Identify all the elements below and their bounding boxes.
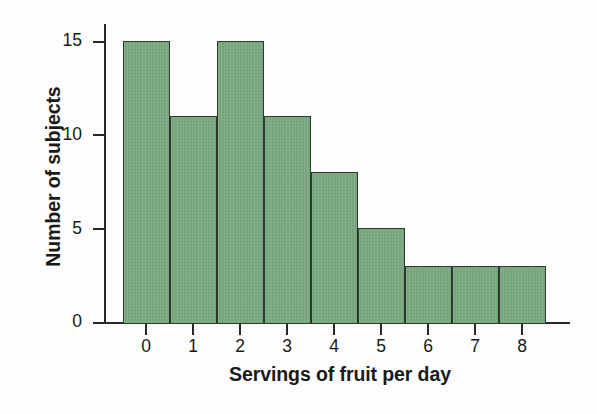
x-tick-label-8: 8 xyxy=(502,336,542,357)
x-tick-4 xyxy=(333,324,335,335)
bar-6 xyxy=(405,266,452,324)
x-tick-label-3: 3 xyxy=(267,336,307,357)
bar-1 xyxy=(170,116,217,324)
bar-5 xyxy=(358,228,405,324)
y-axis-line xyxy=(104,24,106,324)
x-tick-1 xyxy=(192,324,194,335)
y-axis-title: Number of subjects xyxy=(42,27,65,327)
x-tick-label-5: 5 xyxy=(361,336,401,357)
x-tick-label-6: 6 xyxy=(408,336,448,357)
bar-4 xyxy=(311,172,358,324)
y-tick-15 xyxy=(93,41,104,43)
y-tick-label-0: 0 xyxy=(36,311,82,332)
bar-8 xyxy=(499,266,546,324)
x-tick-5 xyxy=(380,324,382,335)
bar-3 xyxy=(264,116,311,324)
bar-7 xyxy=(452,266,499,324)
x-tick-6 xyxy=(427,324,429,335)
y-tick-label-15: 15 xyxy=(36,30,82,51)
bar-2 xyxy=(217,41,264,324)
x-tick-0 xyxy=(145,324,147,335)
x-tick-7 xyxy=(474,324,476,335)
x-tick-label-1: 1 xyxy=(173,336,213,357)
x-tick-label-0: 0 xyxy=(126,336,166,357)
y-tick-5 xyxy=(93,228,104,230)
x-tick-label-4: 4 xyxy=(314,336,354,357)
x-tick-2 xyxy=(239,324,241,335)
histogram-figure: Number of subjects 15 10 5 0 0 1 2 3 4 5… xyxy=(0,0,597,414)
x-tick-label-2: 2 xyxy=(220,336,260,357)
x-axis-title: Servings of fruit per day xyxy=(120,363,560,386)
x-tick-3 xyxy=(286,324,288,335)
y-tick-10 xyxy=(93,134,104,136)
y-tick-label-10: 10 xyxy=(36,124,82,145)
x-tick-8 xyxy=(521,324,523,335)
y-tick-label-5: 5 xyxy=(36,218,82,239)
bar-0 xyxy=(123,41,170,324)
y-tick-0 xyxy=(93,322,104,324)
x-tick-label-7: 7 xyxy=(455,336,495,357)
